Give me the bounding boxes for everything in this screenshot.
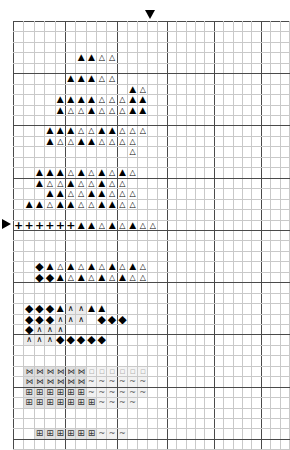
stitch-cell: ▲ [86, 95, 96, 105]
stitch-cell: △ [97, 262, 107, 272]
stitch-cell: ~ [128, 387, 138, 397]
stitch-cell [177, 116, 186, 126]
stitch-cell [97, 293, 107, 303]
stitch-cell [158, 251, 167, 261]
symbol-boxed-plus: ⊞ [24, 388, 33, 397]
stitch-cell [14, 136, 24, 146]
stitch-cell [138, 42, 148, 52]
stitch-cell [186, 210, 195, 220]
stitch-cell: ◆ [107, 314, 117, 324]
stitch-cell [196, 210, 205, 220]
stitch-cell [45, 84, 55, 94]
stitch-cell: ~ [107, 429, 117, 439]
stitch-cell [14, 105, 24, 115]
stitch-cell [177, 178, 186, 188]
stitch-cell: + [45, 220, 55, 230]
symbol-filled-diamond: ◆ [97, 315, 106, 324]
stitch-cell [242, 283, 251, 293]
stitch-cell [158, 147, 167, 157]
stitch-cell [252, 53, 261, 63]
stitch-cell [158, 230, 167, 240]
stitch-cell: △ [107, 136, 117, 146]
stitch-cell [34, 283, 44, 293]
stitch-row: ▲▲▲△▲△▲△▲△ [14, 168, 290, 178]
stitch-cell [196, 439, 205, 449]
stitch-cell [233, 22, 242, 32]
stitch-cell: ◆ [97, 335, 107, 345]
stitch-cell [24, 178, 34, 188]
stitch-row [14, 345, 290, 355]
stitch-cell [24, 408, 34, 418]
stitch-cell [138, 32, 148, 42]
stitch-cell [233, 241, 242, 251]
symbol-filled-triangle: ▲ [45, 126, 54, 135]
symbol-tilde: ~ [128, 398, 137, 407]
symbol-open-triangle: △ [118, 106, 127, 115]
stitch-cell [271, 398, 280, 408]
stitch-cell [186, 304, 195, 314]
stitch-cell [34, 105, 44, 115]
stitch-cell [242, 116, 251, 126]
stitch-cell [107, 304, 117, 314]
stitch-cell [214, 63, 223, 73]
stitch-cell [128, 439, 138, 449]
stitch-cell [196, 220, 205, 230]
stitch-cell: ▲ [55, 189, 65, 199]
symbol-filled-triangle: ▲ [66, 200, 75, 209]
stitch-cell [117, 324, 127, 334]
stitch-cell [66, 147, 76, 157]
symbol-boxed-plus: ⊞ [35, 398, 44, 407]
stitch-cell: ⋈ [76, 366, 86, 376]
stitch-cell [34, 84, 44, 94]
stitch-cell [205, 356, 214, 366]
stitch-cell: ~ [117, 429, 127, 439]
symbol-filled-triangle: ▲ [87, 106, 96, 115]
stitch-cell: △ [66, 272, 76, 282]
stitch-cell [224, 356, 233, 366]
stitch-cell: ▫ [117, 366, 127, 376]
stitch-cell [224, 22, 233, 32]
symbol-open-triangle: △ [138, 262, 147, 271]
stitch-cell [280, 272, 289, 282]
stitch-cell [224, 178, 233, 188]
stitch-cell [66, 408, 76, 418]
stitch-cell: ⋈ [76, 377, 86, 387]
stitch-cell [76, 439, 86, 449]
stitch-cell [177, 136, 186, 146]
stitch-cell [177, 366, 186, 376]
stitch-cell [86, 42, 96, 52]
stitch-cell: ⋈ [55, 377, 65, 387]
stitch-cell: △ [86, 126, 96, 136]
stitch-cell [252, 210, 261, 220]
symbol-plus: + [35, 221, 44, 230]
symbol-filled-diamond: ◆ [76, 335, 85, 344]
stitch-cell [196, 241, 205, 251]
stitch-cell [186, 241, 195, 251]
stitch-cell: ▲ [86, 262, 96, 272]
symbol-tilde: ~ [118, 388, 127, 397]
stitch-cell [224, 210, 233, 220]
stitch-cell [261, 95, 270, 105]
stitch-cell [214, 439, 223, 449]
symbol-boxed-plus: ⊞ [87, 398, 96, 407]
stitch-cell [76, 42, 86, 52]
stitch-cell [24, 356, 34, 366]
stitch-cell: ⊞ [86, 429, 96, 439]
stitch-cell: △ [117, 105, 127, 115]
stitch-cell [177, 241, 186, 251]
stitch-cell: ◆ [24, 324, 34, 334]
stitch-cell [280, 147, 289, 157]
symbol-filled-triangle: ▲ [56, 126, 65, 135]
stitch-cell: + [14, 220, 24, 230]
stitch-cell: ▲ [66, 126, 76, 136]
stitch-cell [271, 168, 280, 178]
stitch-cell [196, 398, 205, 408]
stitch-row: ++++++▲▲△▲△▲△△ [14, 220, 290, 230]
symbol-open-triangle: △ [138, 85, 147, 94]
symbol-boxed-plus: ⊞ [66, 429, 75, 438]
stitch-cell [76, 241, 86, 251]
stitch-cell [233, 398, 242, 408]
stitch-cell: ⊞ [34, 429, 44, 439]
stitch-cell [45, 116, 55, 126]
stitch-cell [205, 199, 214, 209]
